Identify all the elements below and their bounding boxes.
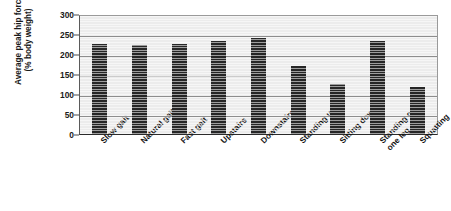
bar [132,45,147,134]
y-tick-label: 300 [60,10,74,20]
bar [251,38,266,134]
y-axis-title-line-1: Average peak hip force [14,0,23,85]
bar-series [80,16,437,134]
x-label-slot: Standing up [278,137,318,211]
bar-slot [318,16,358,134]
y-axis-title: Average peak hip force (% body weight) [2,0,46,102]
y-tick-label: 150 [60,70,74,80]
bar-slot [120,16,160,134]
bar-slot [397,16,437,134]
bar [330,84,345,134]
x-label-slot: Squatting [398,137,438,211]
bar-slot [358,16,398,134]
x-label-slot: Slow gait [79,137,119,211]
bar [410,87,425,134]
y-axis-title-line-2: (% body weight) [24,9,33,72]
x-label-slot: Upstairs [199,137,239,211]
bar-slot [239,16,279,134]
plot-area [79,15,438,135]
bar-slot [278,16,318,134]
bar [211,41,226,134]
bar [92,44,107,134]
y-tick-label: 50 [65,110,74,120]
y-tick-label: 250 [60,30,74,40]
x-label-slot: Natural gait [119,137,159,211]
bar [172,44,187,134]
bar-slot [199,16,239,134]
bar [291,66,306,134]
y-tick-label: 100 [60,90,74,100]
bar [370,41,385,134]
x-label-slot: Downstairs [239,137,279,211]
bar-slot [159,16,199,134]
x-axis-labels: Slow gaitNatural gaitFast gaitUpstairsDo… [79,137,438,211]
bar-slot [80,16,120,134]
x-label-slot: Sitting down [318,137,358,211]
x-label-slot: Standing onone leg [358,137,398,211]
x-label-slot: Fast gait [159,137,199,211]
y-axis-ticks: 050100150200250300 [55,0,79,211]
y-tick-label: 200 [60,50,74,60]
